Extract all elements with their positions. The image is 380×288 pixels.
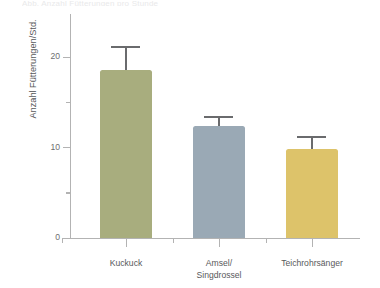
- y-tick-label-20: 20: [32, 52, 60, 61]
- error-bar-stem-teichrohrsaenger: [311, 136, 312, 149]
- plot-area: 0 10 20 Kuckuck Amsel/ Singdrossel T: [0, 0, 380, 288]
- x-category-label-kuckuck-line1: Kuckuck: [110, 258, 142, 268]
- x-tick-major-2: [219, 239, 220, 247]
- x-category-label-amsel-singdrossel: Amsel/ Singdrossel: [169, 258, 269, 281]
- y-tick-15: [66, 102, 72, 103]
- error-bar-stem-amsel-singdrossel: [218, 116, 219, 126]
- y-tick-20: [63, 57, 71, 58]
- y-tick-label-0: 0: [32, 233, 60, 242]
- x-category-label-teichrohrsaenger-line1: Teichrohrsänger: [281, 258, 343, 268]
- x-category-label-kuckuck: Kuckuck: [76, 258, 176, 270]
- y-axis-line: [70, 14, 71, 239]
- x-tick-major-1: [126, 239, 127, 247]
- error-bar-cap-kuckuck: [111, 46, 140, 47]
- x-axis-line: [62, 238, 360, 239]
- y-tick-5: [66, 192, 72, 193]
- error-bar-cap-teichrohrsaenger: [297, 136, 326, 137]
- x-category-label-amsel-singdrossel-line2: Singdrossel: [169, 270, 269, 282]
- x-tick-minor-1: [173, 239, 174, 244]
- bar-chart-figure: Abb. Anzahl Fütterungen pro Stunde Anzah…: [0, 0, 380, 288]
- x-tick-major-3: [312, 239, 313, 247]
- bar-amsel-singdrossel[interactable]: [193, 126, 245, 237]
- y-tick-0: [63, 238, 71, 239]
- y-tick-10: [63, 147, 71, 148]
- y-tick-label-10: 10: [32, 143, 60, 152]
- bar-kuckuck[interactable]: [100, 70, 152, 237]
- x-category-label-teichrohrsaenger: Teichrohrsänger: [262, 258, 362, 270]
- error-bar-stem-kuckuck: [125, 46, 126, 70]
- error-bar-cap-amsel-singdrossel: [204, 116, 233, 117]
- x-tick-minor-2: [266, 239, 267, 244]
- x-tick-minor-0: [62, 239, 63, 244]
- x-category-label-amsel-singdrossel-line1: Amsel/: [206, 258, 232, 268]
- bar-teichrohrsaenger[interactable]: [286, 149, 338, 238]
